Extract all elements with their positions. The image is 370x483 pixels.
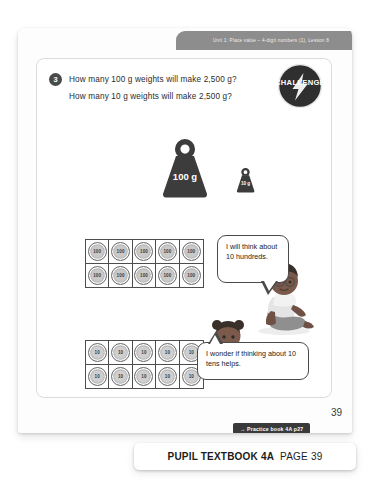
counter-value: 10: [165, 374, 170, 379]
question-text-line-2: How many 10 g weights will make 2,500 g?: [69, 92, 232, 101]
ten-frame-cell: 10: [109, 341, 132, 365]
counter-value: 100: [117, 273, 125, 278]
running-head-text: Unit 1: Place value – 4-digit numbers (1…: [213, 38, 329, 43]
ten-frame-cell: 10: [156, 365, 179, 389]
counter-value: 10: [95, 374, 100, 379]
counter-value: 10: [95, 350, 100, 355]
weight-100g-icon: 100 g: [152, 137, 218, 199]
counter-value: 100: [187, 273, 195, 278]
counter-value: 100: [140, 273, 148, 278]
practice-book-link-tag[interactable]: → Practice book 4A p27: [233, 423, 310, 433]
ten-frame-cell: 100: [86, 264, 109, 288]
counter-10: 10: [158, 367, 177, 386]
counter-10: 10: [134, 367, 153, 386]
question-box: 3 How many 100 g weights will make 2,500…: [36, 58, 332, 398]
counter-100: 100: [134, 266, 153, 285]
counter-100: 100: [111, 266, 130, 285]
tens-ten-frame: 10 10 10 10 10 10 10 10 10 10: [85, 340, 204, 389]
counter-100: 100: [158, 266, 177, 285]
speech-bubble-tens-text: I wonder if thinking about 10 tens helps…: [206, 349, 300, 369]
ten-frame-cell: 100: [86, 240, 109, 264]
counter-value: 100: [163, 273, 171, 278]
counter-value: 10: [141, 374, 146, 379]
counter-10: 10: [158, 343, 177, 362]
textbook-page: Unit 1: Place value – 4-digit numbers (1…: [18, 28, 352, 433]
ten-frame-cell: 100: [156, 240, 179, 264]
page-inner: Unit 1: Place value – 4-digit numbers (1…: [18, 28, 352, 433]
counter-value: 100: [187, 249, 195, 254]
speech-bubble-hundreds-text: I will think about 10 hundreds.: [226, 242, 280, 262]
page-folio-number: 39: [331, 407, 342, 418]
counter-100: 100: [158, 242, 177, 261]
ten-frame-cell: 100: [109, 240, 132, 264]
counter-100: 100: [111, 242, 130, 261]
counter-value: 10: [189, 350, 194, 355]
counter-value: 100: [93, 273, 101, 278]
ten-frame-cell: 100: [156, 264, 179, 288]
ten-frame-cell: 100: [180, 240, 203, 264]
ten-frame-cell: 100: [180, 264, 203, 288]
counter-value: 100: [117, 249, 125, 254]
counter-10: 10: [88, 343, 107, 362]
counter-10: 10: [111, 367, 130, 386]
counter-value: 100: [93, 249, 101, 254]
ten-frame-cell: 10: [133, 365, 156, 389]
hundreds-ten-frame: 100 100 100 100 100 100 100 100 100 100: [85, 239, 204, 288]
counter-value: 100: [163, 249, 171, 254]
practice-book-link-label: Practice book 4A p27: [247, 426, 303, 432]
ten-frame-cell: 100: [109, 264, 132, 288]
speech-bubble-tens: I wonder if thinking about 10 tens helps…: [197, 342, 309, 380]
weights-illustration-row: 100 g 10 g: [37, 137, 331, 201]
counter-100: 100: [88, 242, 107, 261]
question-number-badge: 3: [49, 73, 62, 86]
counter-100: 100: [88, 266, 107, 285]
counter-10: 10: [134, 343, 153, 362]
counter-value: 10: [189, 374, 194, 379]
ten-frame-cell: 10: [156, 341, 179, 365]
counter-100: 100: [182, 266, 201, 285]
ten-frame-cell: 10: [86, 365, 109, 389]
counter-10: 10: [111, 343, 130, 362]
bottom-banner-title: PUPIL TEXTBOOK 4A: [168, 451, 275, 462]
counter-100: 100: [134, 242, 153, 261]
counter-10: 10: [88, 367, 107, 386]
ten-frame-cell: 10: [86, 341, 109, 365]
question-text-line-1: How many 100 g weights will make 2,500 g…: [69, 75, 237, 84]
speech-bubble-tail-inner: [210, 335, 220, 344]
ten-frame-cell: 10: [109, 365, 132, 389]
challenge-badge-icon: CHALLENGE: [277, 63, 323, 109]
speech-bubble-hundreds: I will think about 10 hundreds.: [217, 235, 289, 283]
counter-value: 10: [118, 350, 123, 355]
arrow-right-icon: →: [240, 426, 245, 432]
ten-frame-cell: 100: [133, 264, 156, 288]
counter-value: 100: [140, 249, 148, 254]
counter-100: 100: [182, 242, 201, 261]
counter-value: 10: [165, 350, 170, 355]
bottom-banner-page-label: PAGE 39: [280, 451, 322, 462]
ten-frame-cell: 100: [133, 240, 156, 264]
weight-10g-icon: 10 g: [233, 167, 258, 193]
counter-value: 10: [141, 350, 146, 355]
running-head-tab: Unit 1: Place value – 4-digit numbers (1…: [176, 31, 352, 50]
bottom-banner: PUPIL TEXTBOOK 4A PAGE 39: [134, 443, 356, 470]
counter-value: 10: [118, 374, 123, 379]
ten-frame-cell: 10: [133, 341, 156, 365]
speech-bubble-tail-inner: [264, 281, 276, 291]
